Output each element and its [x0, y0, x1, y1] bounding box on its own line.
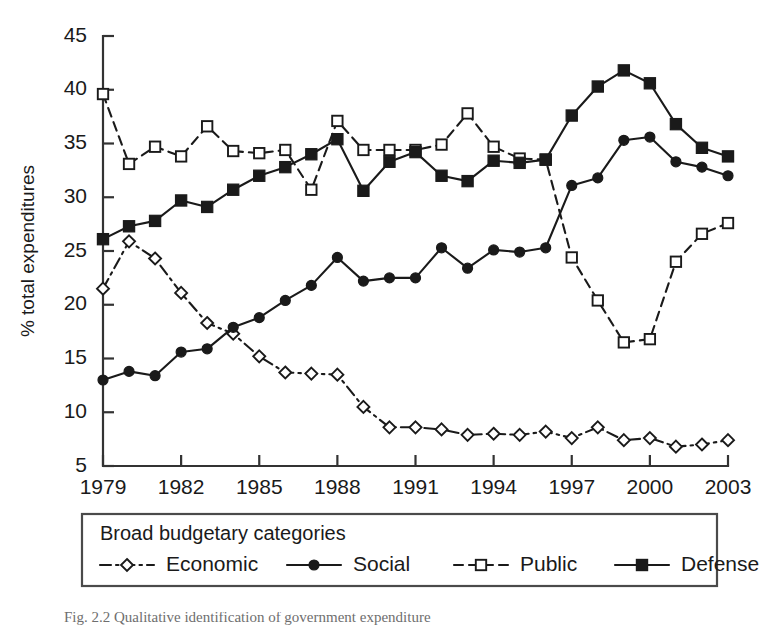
- y-tick-label: 45: [64, 23, 87, 46]
- data-point-economic: [436, 423, 448, 435]
- figure-container: % total expenditures 51015202530354045 1…: [0, 0, 782, 626]
- data-point-defense: [254, 170, 265, 181]
- data-point-economic: [97, 283, 109, 295]
- data-point-defense: [149, 215, 160, 226]
- series-social: [98, 132, 733, 385]
- data-point-social: [306, 280, 316, 290]
- data-point-public: [619, 337, 629, 347]
- chart-series-layer: [97, 65, 734, 453]
- data-point-defense: [306, 149, 317, 160]
- data-point-social: [463, 263, 473, 273]
- data-point-economic: [462, 429, 474, 441]
- y-tick-label: 10: [64, 399, 87, 422]
- data-point-economic: [410, 421, 422, 433]
- data-point-public: [332, 116, 342, 126]
- data-point-public: [645, 334, 655, 344]
- data-point-social: [515, 247, 525, 257]
- y-tick-label: 15: [64, 345, 87, 368]
- figure-caption-strip: Fig. 2.2 Qualitative identification of g…: [0, 612, 782, 626]
- data-point-public: [671, 257, 681, 267]
- data-point-public: [176, 151, 186, 161]
- x-tick-label: 2003: [705, 475, 752, 498]
- x-tick-label: 1982: [158, 475, 205, 498]
- data-point-social: [176, 347, 186, 357]
- data-point-economic: [514, 429, 526, 441]
- data-point-defense: [410, 147, 421, 158]
- data-point-economic: [540, 426, 552, 438]
- data-point-social: [150, 371, 160, 381]
- data-point-defense: [97, 234, 108, 245]
- figure-caption-text: Fig. 2.2 Qualitative identification of g…: [64, 612, 431, 626]
- data-point-social: [541, 243, 551, 253]
- data-point-social: [567, 180, 577, 190]
- data-point-defense: [670, 119, 681, 130]
- data-point-defense: [176, 195, 187, 206]
- chart-legend: Broad budgetary categoriesEconomicSocial…: [82, 514, 759, 586]
- data-point-social: [384, 273, 394, 283]
- data-point-defense: [696, 142, 707, 153]
- x-tick-label: 1994: [470, 475, 517, 498]
- data-point-social: [411, 273, 421, 283]
- data-point-economic: [670, 441, 682, 453]
- x-tick-label: 1985: [236, 475, 283, 498]
- data-point-social: [202, 344, 212, 354]
- data-point-public: [124, 159, 134, 169]
- data-point-defense: [228, 184, 239, 195]
- x-tick-label: 1988: [314, 475, 361, 498]
- legend-label-defense: Defense: [681, 552, 759, 575]
- data-point-defense: [332, 134, 343, 145]
- data-point-social: [489, 245, 499, 255]
- data-point-public: [593, 295, 603, 305]
- data-point-public: [488, 142, 498, 152]
- legend-title-text: Broad budgetary categories: [100, 522, 346, 544]
- data-point-public: [202, 121, 212, 131]
- data-point-public: [150, 142, 160, 152]
- data-point-economic: [696, 439, 708, 451]
- legend-sample-marker-defense: [636, 559, 647, 570]
- data-point-social: [723, 171, 733, 181]
- data-point-defense: [618, 65, 629, 76]
- series-public: [98, 89, 733, 348]
- series-line-economic: [103, 241, 728, 446]
- series-defense: [97, 65, 733, 245]
- data-point-defense: [514, 157, 525, 168]
- data-point-defense: [436, 170, 447, 181]
- y-tick-label: 35: [64, 130, 87, 153]
- data-point-economic: [618, 434, 630, 446]
- axis-spines: [103, 36, 728, 466]
- data-point-defense: [280, 162, 291, 173]
- data-point-defense: [123, 221, 134, 232]
- legend-label-economic: Economic: [166, 552, 258, 575]
- data-point-social: [124, 366, 134, 376]
- series-economic: [97, 235, 734, 452]
- data-point-public: [280, 145, 290, 155]
- data-point-economic: [644, 432, 656, 444]
- data-point-social: [671, 157, 681, 167]
- data-point-social: [254, 313, 264, 323]
- y-tick-label: 30: [64, 184, 87, 207]
- y-axis-title: % total expenditures: [17, 165, 38, 337]
- data-point-social: [697, 162, 707, 172]
- data-point-public: [98, 89, 108, 99]
- y-tick-label: 40: [64, 76, 87, 99]
- y-axis-tick-labels: 51015202530354045: [64, 23, 87, 476]
- data-point-public: [228, 146, 238, 156]
- data-point-defense: [540, 154, 551, 165]
- legend-sample-marker-social: [309, 560, 319, 570]
- data-point-social: [358, 276, 368, 286]
- data-point-defense: [358, 185, 369, 196]
- data-point-economic: [201, 317, 213, 329]
- data-point-public: [254, 148, 264, 158]
- x-tick-label: 1979: [80, 475, 127, 498]
- x-tick-label: 2000: [627, 475, 674, 498]
- chart-axes: [103, 36, 728, 466]
- data-point-public: [723, 218, 733, 228]
- data-point-economic: [123, 235, 135, 247]
- data-point-social: [332, 252, 342, 262]
- data-point-social: [228, 322, 238, 332]
- series-line-social: [103, 137, 728, 380]
- data-point-social: [619, 135, 629, 145]
- data-point-economic: [149, 253, 161, 265]
- data-point-public: [462, 108, 472, 118]
- series-line-public: [103, 94, 728, 342]
